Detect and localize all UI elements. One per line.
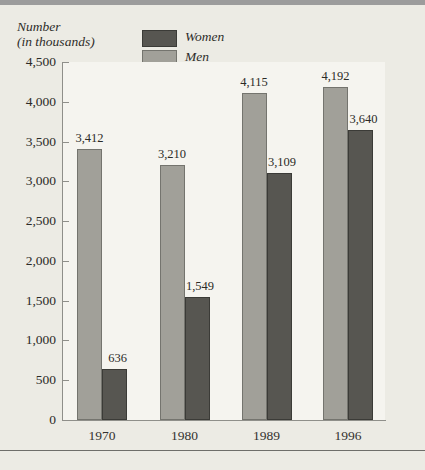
- y-tick-mark: [63, 62, 69, 63]
- men-bar: [242, 93, 267, 420]
- men-bar-value-label: 3,412: [65, 131, 115, 146]
- y-tick-label: 3,000: [0, 173, 56, 189]
- y-axis-line: [62, 62, 63, 420]
- women-bar-value-label: 1,549: [175, 279, 225, 294]
- women-bar: [185, 297, 210, 420]
- scanned-chart-page: Number (in thousands) WomenMen 05001,000…: [0, 0, 425, 470]
- y-tick-label: 1,500: [0, 293, 56, 309]
- y-axis-title-line1: Number: [17, 19, 95, 34]
- women-bar: [102, 369, 127, 420]
- y-tick-label: 2,000: [0, 253, 56, 269]
- y-tick-mark: [63, 301, 69, 302]
- men-bar: [77, 149, 102, 420]
- y-axis-title-line2: (in thousands): [17, 34, 95, 49]
- y-tick-label: 4,500: [0, 54, 56, 70]
- y-tick-label: 2,500: [0, 213, 56, 229]
- y-axis-title: Number (in thousands): [17, 19, 95, 49]
- y-tick-label: 500: [0, 372, 56, 388]
- bottom-rule: [0, 450, 425, 451]
- y-tick-mark: [63, 261, 69, 262]
- women-legend-swatch: [142, 30, 177, 47]
- men-bar-value-label: 3,210: [147, 147, 197, 162]
- y-tick-mark: [63, 221, 69, 222]
- women-bar: [267, 173, 292, 420]
- men-bar-value-label: 4,115: [229, 75, 279, 90]
- women-bar-value-label: 3,109: [257, 155, 307, 170]
- x-tick-label: 1996: [318, 428, 378, 444]
- women-bar-value-label: 636: [93, 351, 143, 366]
- y-tick-label: 3,500: [0, 134, 56, 150]
- x-tick-label: 1980: [155, 428, 215, 444]
- y-tick-mark: [63, 102, 69, 103]
- x-axis-baseline: [62, 420, 386, 421]
- y-tick-mark: [63, 181, 69, 182]
- top-border-band: [0, 0, 425, 5]
- women-legend-label: Women: [185, 29, 224, 45]
- y-tick-label: 4,000: [0, 94, 56, 110]
- men-bar: [323, 87, 348, 420]
- women-bar: [348, 130, 373, 420]
- y-tick-label: 1,000: [0, 332, 56, 348]
- women-bar-value-label: 3,640: [339, 112, 389, 127]
- y-tick-mark: [63, 340, 69, 341]
- x-tick-label: 1970: [72, 428, 132, 444]
- y-tick-mark: [63, 380, 69, 381]
- y-tick-label: 0: [0, 412, 56, 428]
- men-bar-value-label: 4,192: [311, 69, 361, 84]
- x-tick-label: 1989: [237, 428, 297, 444]
